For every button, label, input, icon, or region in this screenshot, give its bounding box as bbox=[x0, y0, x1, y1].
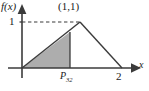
peak-point-label: (1,1) bbox=[58, 1, 79, 12]
y-tick-label-one: 1 bbox=[9, 16, 15, 27]
percentile-label: P32 bbox=[60, 71, 72, 84]
figure-container: f(x) 1 (1,1) x 2 P32 bbox=[0, 0, 149, 91]
y-axis-arrowhead-icon bbox=[18, 4, 27, 14]
percentile-label-subscript: 32 bbox=[66, 76, 72, 83]
x-tick-label-two: 2 bbox=[116, 71, 122, 82]
triangular-density-plot bbox=[0, 0, 149, 91]
density-falling-limb bbox=[80, 22, 122, 68]
y-axis-label: f(x) bbox=[1, 1, 16, 12]
x-axis-label: x bbox=[139, 60, 143, 70]
